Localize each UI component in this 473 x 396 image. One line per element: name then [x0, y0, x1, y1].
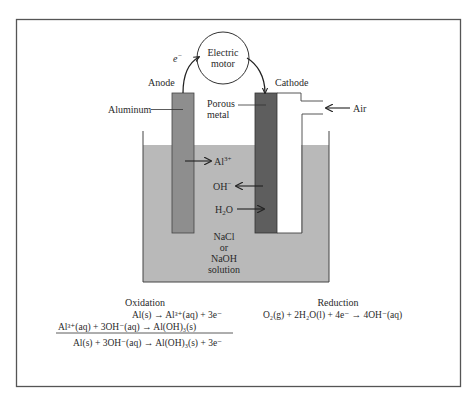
motor-label-line1: Electric [207, 47, 239, 58]
reduction-equation: O₂(g) + 2H₂O(l) + 4e⁻ → 4OH⁻(aq) [263, 310, 402, 321]
cathode-label: Cathode [275, 77, 309, 88]
porous-metal-label-line1: Porous [207, 98, 235, 109]
porous-metal-label-line2: metal [207, 109, 229, 120]
oxidation-equation-2: Al³⁺(aq) + 3OH⁻(aq) → Al(OH)₃(s) [58, 322, 196, 333]
wire-motor-to-cathode [247, 58, 265, 93]
solution-label-line1: NaCl [213, 231, 234, 242]
anode-electrode [172, 93, 194, 233]
aluminum-air-cell-diagram: Electric motor e− Anode Cathode Aluminum… [0, 0, 473, 396]
oxidation-title: Oxidation [125, 297, 165, 308]
aluminum-label: Aluminum [108, 104, 152, 115]
solution-label-line2: or [220, 242, 229, 253]
oxidation-net-equation: Al(s) + 3OH⁻(aq) → Al(OH)₃(s) + 3e⁻ [73, 338, 222, 349]
motor-label-line2: motor [211, 58, 236, 69]
anode-label: Anode [148, 77, 175, 88]
air-label: Air [353, 103, 367, 114]
oxidation-equation-1: Al(s) → Al³⁺(aq) + 3e⁻ [132, 310, 222, 321]
air-compartment [277, 93, 301, 233]
electron-label: e− [173, 52, 182, 64]
reduction-title: Reduction [317, 297, 358, 308]
wire-anode-to-motor [183, 57, 199, 93]
solution-label-line3: NaOH [211, 253, 237, 264]
cathode-electrode [255, 93, 277, 233]
solution-label-line4: solution [208, 264, 240, 275]
